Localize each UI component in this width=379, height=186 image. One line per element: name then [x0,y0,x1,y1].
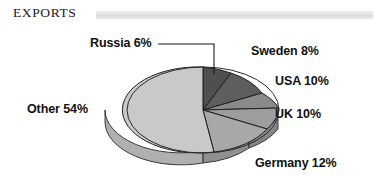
pie-label-germany: Germany 12% [255,156,337,170]
exports-pie-chart-figure: EXPORTS [0,0,379,186]
pie-label-sweden: Sweden 8% [251,44,319,58]
page-title: EXPORTS [13,5,76,21]
pie-label-russia: Russia 6% [90,36,152,50]
pie-label-usa: USA 10% [275,74,329,88]
chart-area: Russia 6% Sweden 8% USA 10% UK 10% Germa… [0,22,379,186]
pie-label-uk: UK 10% [275,107,321,121]
pie-slice-other [122,67,214,153]
pie-label-other: Other 54% [27,102,88,116]
header-divider-bar [96,11,373,19]
